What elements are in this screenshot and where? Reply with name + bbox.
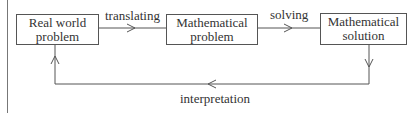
node-label-line1: Real world — [29, 16, 86, 30]
edge-label-translating: translating — [105, 8, 160, 24]
node-label-line2: solution — [328, 29, 399, 43]
node-label-line1: Mathematical — [328, 15, 399, 29]
edge-label-interpretation: interpretation — [180, 91, 250, 107]
node-real-world-problem: Real world problem — [16, 14, 99, 45]
node-label-line2: problem — [176, 30, 247, 44]
node-label-line2: problem — [29, 30, 86, 44]
edge-label-solving: solving — [270, 7, 308, 23]
node-mathematical-solution: Mathematical solution — [320, 13, 407, 45]
node-mathematical-problem: Mathematical problem — [166, 14, 258, 45]
node-label-line1: Mathematical — [176, 16, 247, 30]
